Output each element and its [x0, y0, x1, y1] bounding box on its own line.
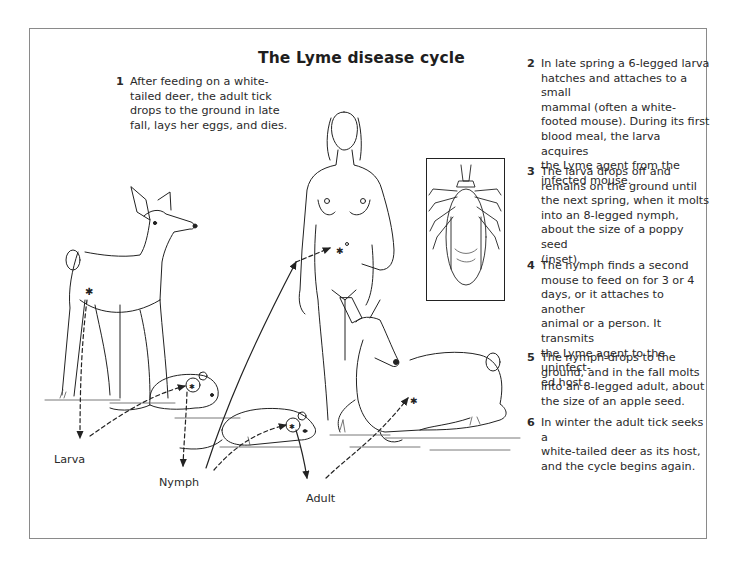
tick-icon	[427, 159, 503, 299]
arrow-nymph-drops-to-adult	[296, 430, 307, 478]
lying-deer-illustration: ✱	[338, 298, 506, 442]
svg-text:✱: ✱	[289, 423, 295, 431]
ground-lines	[45, 390, 520, 450]
woman-illustration: ✱	[299, 112, 394, 420]
mouse-1-illustration: ✱	[110, 372, 218, 410]
arrow-adult-drops-to-larva	[80, 300, 87, 438]
tick-inset	[426, 158, 505, 301]
arrow-larva-to-mouse	[90, 386, 185, 436]
svg-text:✱: ✱	[336, 246, 344, 256]
svg-text:✱: ✱	[410, 396, 418, 406]
standing-deer-illustration: ✱	[62, 187, 197, 398]
arrow-larva-drops-to-nymph	[183, 392, 187, 466]
svg-text:✱: ✱	[85, 286, 93, 297]
mouse-2-illustration: ✱	[180, 408, 316, 449]
arrow-nymph-to-mouse	[214, 425, 286, 470]
svg-text:✱: ✱	[189, 383, 195, 391]
cycle-arrows	[80, 248, 408, 478]
lyme-cycle-illustration: ✱ ✱ ✱	[0, 0, 733, 572]
arrow-nymph-to-person	[206, 262, 296, 468]
